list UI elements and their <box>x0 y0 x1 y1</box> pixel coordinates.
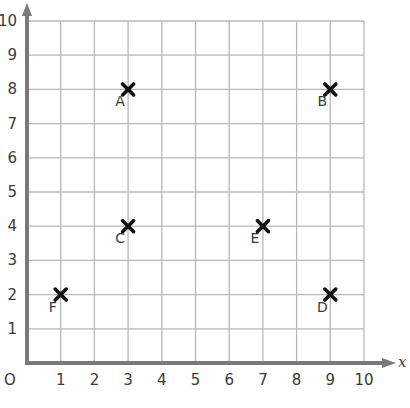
y-tick-label: 5 <box>7 183 17 201</box>
y-tick-label: 4 <box>7 217 17 235</box>
point-label: A <box>115 93 125 109</box>
grid-lines <box>27 21 364 363</box>
point-b: B <box>317 84 335 110</box>
point-label: E <box>250 230 259 246</box>
y-tick-label: 1 <box>7 320 17 338</box>
y-tick-label: 6 <box>7 149 17 167</box>
point-label: F <box>49 299 57 315</box>
point-label: B <box>317 93 327 109</box>
x-axis-arrow-icon <box>382 358 396 368</box>
y-tick-label: 10 <box>0 12 17 30</box>
origin-label: O <box>4 371 16 389</box>
x-tick-label: 1 <box>56 371 66 389</box>
point-f: F <box>49 289 67 315</box>
point-c: C <box>115 221 133 247</box>
x-tick-label: 7 <box>258 371 268 389</box>
y-tick-label: 7 <box>7 115 17 133</box>
y-tick-label: 9 <box>7 46 17 64</box>
x-tick-label: 3 <box>123 371 133 389</box>
axes: xO <box>4 3 407 389</box>
x-tick-label: 2 <box>90 371 100 389</box>
point-label: C <box>115 230 125 246</box>
x-tick-label: 10 <box>354 371 373 389</box>
x-tick-label: 9 <box>326 371 336 389</box>
tick-labels: 1234567891012345678910 <box>0 12 374 389</box>
y-tick-label: 3 <box>7 251 17 269</box>
y-tick-label: 2 <box>7 286 17 304</box>
point-label: D <box>317 299 328 315</box>
point-e: E <box>250 221 268 247</box>
point-a: A <box>115 84 133 110</box>
coordinate-grid-chart: xO 1234567891012345678910 ABCDEF <box>0 0 410 408</box>
y-tick-label: 8 <box>7 80 17 98</box>
data-points: ABCDEF <box>49 84 336 315</box>
y-axis-arrow-icon <box>22 3 32 16</box>
point-d: D <box>317 289 336 315</box>
x-tick-label: 5 <box>191 371 201 389</box>
x-tick-label: 8 <box>292 371 302 389</box>
x-tick-label: 6 <box>224 371 234 389</box>
x-tick-label: 4 <box>157 371 167 389</box>
x-axis-label: x <box>398 353 407 371</box>
